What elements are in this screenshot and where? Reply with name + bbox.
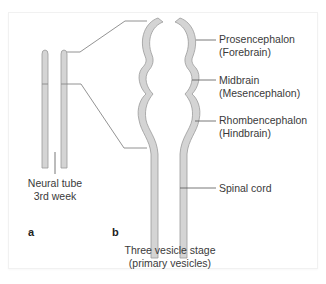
panel-letter-a: a (28, 226, 34, 238)
neural-tube-left-wall (42, 50, 48, 168)
caption-panel-b: Three vesicle stage (primary vesicles) (115, 244, 225, 270)
label-rhombencephalon: Rhombencephalon (Hindbrain) (219, 114, 307, 140)
leader-line-bottom (67, 84, 147, 148)
caption-panel-a: Neural tube 3rd week (22, 177, 88, 203)
label-prosencephalon: Prosencephalon (Forebrain) (219, 33, 295, 59)
panel-letter-b: b (112, 226, 119, 238)
neural-tube-right-wall (61, 50, 67, 168)
label-spinal-cord: Spinal cord (219, 182, 272, 195)
label-midbrain: Midbrain (Mesencephalon) (219, 74, 300, 100)
leader-line-top (67, 21, 147, 52)
vesicle-left-wall (138, 18, 163, 258)
vesicle-right-wall (175, 18, 200, 258)
